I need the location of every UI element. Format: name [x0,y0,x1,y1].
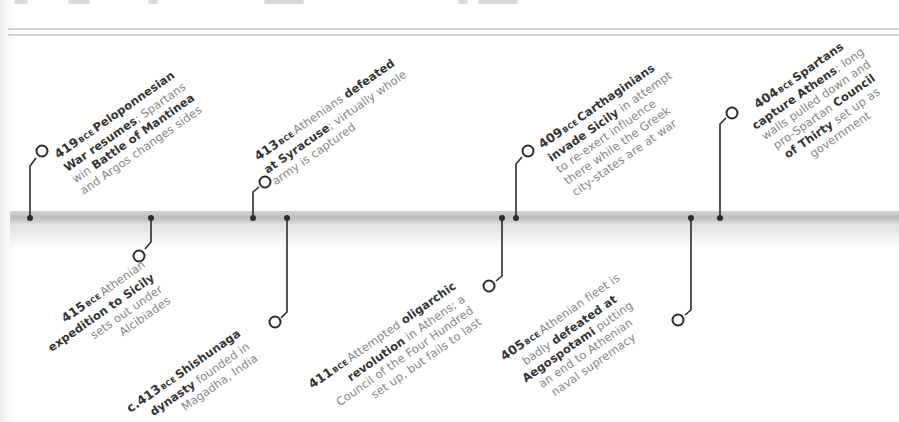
timeline-dot-icon [27,215,33,221]
event-marker-ring-icon [37,146,48,157]
event-marker-ring-icon [484,281,495,292]
timeline-dot-icon [499,215,505,221]
event-marker-ring-icon [673,315,684,326]
event-marker-ring-icon [270,317,281,328]
timeline-dot-icon [250,215,256,221]
connector-c413 [270,218,288,328]
timeline-dots [27,215,723,221]
timeline-dot-icon [717,215,723,221]
connector-409 [516,146,534,219]
timeline-dot-icon [284,215,290,221]
connector-413 [253,177,271,219]
event-marker-ring-icon [523,146,534,157]
connector-415 [134,218,152,262]
connector-404 [720,108,738,219]
connector-405 [673,218,692,326]
event-marker-ring-icon [260,177,271,188]
timeline-dot-icon [688,215,694,221]
connector-419 [30,146,48,219]
timeline-dot-icon [148,215,154,221]
timeline-dot-icon [513,215,519,221]
timeline-connectors [0,0,899,422]
event-marker-ring-icon [727,108,738,119]
connector-411 [484,218,503,292]
